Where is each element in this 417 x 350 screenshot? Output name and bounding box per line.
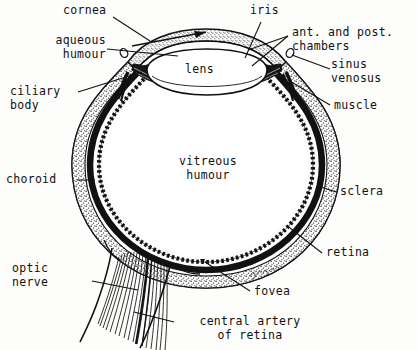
- label-ant-post-chambers: ant. and post. chambers: [292, 26, 393, 53]
- label-sclera: sclera: [340, 185, 383, 199]
- label-optic-nerve: optic nerve: [12, 262, 48, 289]
- label-ciliary-body: ciliary body: [10, 85, 61, 112]
- label-lens: lens: [185, 63, 214, 77]
- label-fovea: fovea: [254, 285, 290, 299]
- label-central-artery-of-retina: central artery of retina: [176, 315, 324, 342]
- label-vitreous-humour: vitreous humour: [158, 155, 258, 182]
- label-sinus-venosus: sinus venosus: [331, 58, 382, 85]
- label-choroid: choroid: [6, 173, 57, 187]
- label-aqueous-humour: aqueous humour: [6, 34, 106, 61]
- label-muscle: muscle: [334, 99, 377, 113]
- eye-anatomy-figure: cornea aqueous humour ciliary body choro…: [0, 0, 417, 350]
- label-cornea: cornea: [63, 4, 106, 18]
- label-retina: retina: [326, 246, 369, 260]
- fovea-marker: [200, 259, 205, 264]
- label-iris: iris: [250, 4, 279, 18]
